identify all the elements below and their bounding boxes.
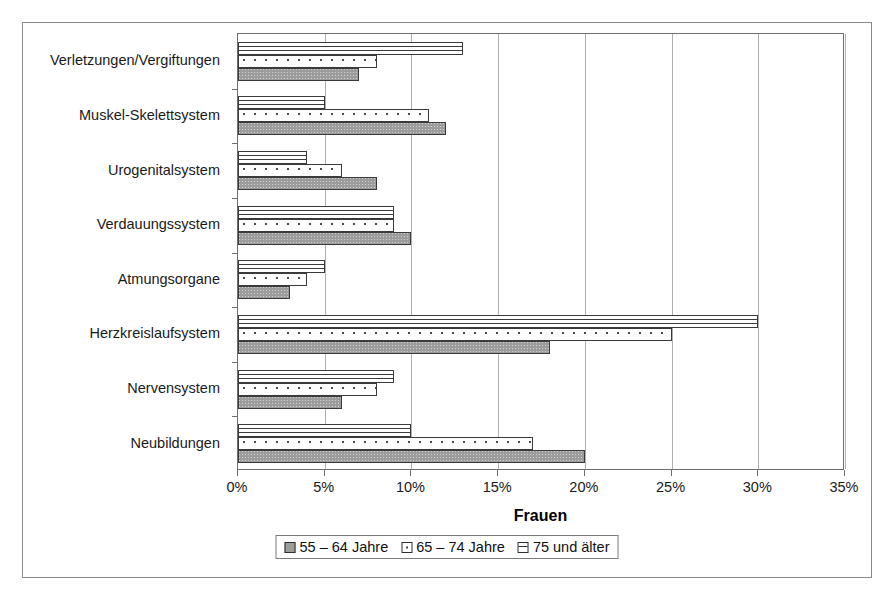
x-axis-tick-label: 10% bbox=[396, 478, 425, 496]
bar bbox=[238, 96, 325, 109]
category-tick bbox=[232, 143, 238, 144]
legend-swatch-icon bbox=[285, 542, 296, 553]
bar bbox=[238, 341, 550, 354]
x-axis-tick bbox=[757, 470, 758, 476]
x-axis-tick-label: 0% bbox=[227, 478, 248, 496]
x-axis-tick-label: 5% bbox=[313, 478, 334, 496]
bar bbox=[238, 437, 533, 450]
bar bbox=[238, 370, 394, 383]
bar bbox=[238, 260, 325, 273]
x-axis-tick-label: 15% bbox=[483, 478, 512, 496]
bar bbox=[238, 206, 394, 219]
category-tick bbox=[232, 307, 238, 308]
bar bbox=[238, 68, 359, 81]
y-axis-label: Verletzungen/Vergiftungen bbox=[50, 52, 220, 68]
legend-label: 55 – 64 Jahre bbox=[300, 539, 389, 555]
bar bbox=[238, 315, 758, 328]
gridline bbox=[845, 34, 846, 469]
bar bbox=[238, 42, 463, 55]
x-axis-tick-label: 25% bbox=[656, 478, 685, 496]
x-axis-tick-label: 20% bbox=[569, 478, 598, 496]
bar-group bbox=[238, 89, 843, 144]
bar-group bbox=[238, 362, 843, 417]
legend-swatch-icon bbox=[401, 542, 412, 553]
x-axis-tick-label: 30% bbox=[743, 478, 772, 496]
category-tick bbox=[232, 89, 238, 90]
bar bbox=[238, 328, 672, 341]
x-axis-tick bbox=[410, 470, 411, 476]
y-axis-label: Atmungsorgane bbox=[118, 271, 220, 287]
x-axis-tick bbox=[324, 470, 325, 476]
bar-group bbox=[238, 198, 843, 253]
y-axis-label: Herzkreislaufsystem bbox=[89, 325, 220, 341]
bar bbox=[238, 273, 307, 286]
legend-label: 75 und älter bbox=[533, 539, 610, 555]
bar bbox=[238, 122, 446, 135]
x-axis-title: Frauen bbox=[237, 507, 844, 525]
bar bbox=[238, 177, 377, 190]
chart-legend: 55 – 64 Jahre65 – 74 Jahre75 und älter bbox=[276, 535, 619, 559]
x-axis-tick-label: 35% bbox=[829, 478, 858, 496]
x-axis-tick-labels: 0%5%10%15%20%25%30%35% bbox=[237, 478, 844, 498]
legend-item: 55 – 64 Jahre bbox=[285, 539, 389, 555]
x-axis-tick bbox=[497, 470, 498, 476]
bar bbox=[238, 232, 411, 245]
bar bbox=[238, 219, 394, 232]
bar bbox=[238, 286, 290, 299]
category-tick bbox=[232, 253, 238, 254]
bar bbox=[238, 55, 377, 68]
category-tick bbox=[232, 416, 238, 417]
x-axis-tick bbox=[844, 470, 845, 476]
bar-group bbox=[238, 34, 843, 89]
bar bbox=[238, 164, 342, 177]
y-axis-labels: Verletzungen/VergiftungenMuskel-Skeletts… bbox=[23, 33, 230, 470]
bar bbox=[238, 396, 342, 409]
bar-group bbox=[238, 253, 843, 308]
y-axis-label: Neubildungen bbox=[131, 435, 221, 451]
x-axis-tick bbox=[671, 470, 672, 476]
x-axis-tick bbox=[584, 470, 585, 476]
bar bbox=[238, 383, 377, 396]
category-tick bbox=[232, 362, 238, 363]
category-tick bbox=[232, 198, 238, 199]
y-axis-label: Verdauungssystem bbox=[97, 216, 220, 232]
x-axis-tick bbox=[237, 470, 238, 476]
bar-group bbox=[238, 416, 843, 471]
legend-swatch-icon bbox=[518, 542, 529, 553]
legend-item: 65 – 74 Jahre bbox=[401, 539, 505, 555]
y-axis-label: Nervensystem bbox=[127, 380, 220, 396]
bar bbox=[238, 151, 307, 164]
plot-area bbox=[237, 33, 844, 470]
chart-figure: Verletzungen/VergiftungenMuskel-Skeletts… bbox=[22, 22, 872, 578]
bar bbox=[238, 424, 411, 437]
y-axis-label: Muskel-Skelettsystem bbox=[79, 107, 220, 123]
legend-label: 65 – 74 Jahre bbox=[416, 539, 505, 555]
bar bbox=[238, 109, 429, 122]
bar-group bbox=[238, 143, 843, 198]
legend-item: 75 und älter bbox=[518, 539, 610, 555]
y-axis-label: Urogenitalsystem bbox=[108, 162, 220, 178]
x-axis-ticks bbox=[237, 470, 844, 477]
bar-group bbox=[238, 307, 843, 362]
bar bbox=[238, 450, 585, 463]
